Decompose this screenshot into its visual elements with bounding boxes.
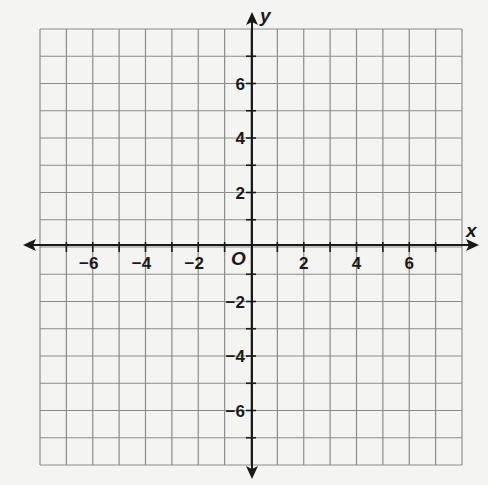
coordinate-plane: −6−4−2246642−2−4−6 x y O [0, 0, 488, 485]
axes [23, 12, 479, 479]
origin-label: O [231, 248, 246, 269]
x-tick-label: 4 [352, 254, 362, 273]
x-tick-label: −2 [185, 254, 204, 273]
y-axis-label: y [259, 5, 272, 26]
x-tick-label: −4 [132, 254, 152, 273]
y-tick-label: 2 [236, 184, 245, 203]
y-tick-label: 4 [236, 129, 246, 148]
y-tick-label: −4 [226, 347, 246, 366]
x-tick-label: 2 [299, 254, 308, 273]
x-tick-label: −6 [79, 254, 98, 273]
x-axis-label: x [465, 220, 478, 241]
y-tick-label: −6 [226, 402, 245, 421]
y-tick-label: 6 [236, 75, 245, 94]
y-tick-label: −2 [226, 293, 245, 312]
x-tick-label: 6 [405, 254, 414, 273]
